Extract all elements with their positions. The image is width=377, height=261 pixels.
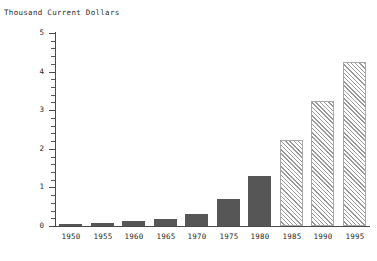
x-axis-tick-label-1950: 1950 bbox=[55, 232, 87, 241]
bar-1980 bbox=[248, 176, 271, 226]
x-axis-tick-label-1980: 1980 bbox=[244, 232, 276, 241]
bar-1985 bbox=[280, 140, 303, 226]
bar-1950 bbox=[59, 224, 82, 226]
bar-1975 bbox=[217, 199, 240, 226]
bar-1995 bbox=[343, 62, 366, 226]
bar-1960 bbox=[122, 221, 145, 226]
x-axis-tick-label-1955: 1955 bbox=[87, 232, 119, 241]
bar-chart: Thousand Current Dollars 012345 19501955… bbox=[0, 0, 377, 261]
x-axis-tick-label-1975: 1975 bbox=[213, 232, 245, 241]
bars-container bbox=[0, 0, 377, 261]
x-axis-tick-label-1995: 1995 bbox=[339, 232, 371, 241]
bar-1990 bbox=[311, 101, 334, 226]
x-axis-tick-label-1960: 1960 bbox=[118, 232, 150, 241]
x-axis-tick-label-1970: 1970 bbox=[181, 232, 213, 241]
bar-1970 bbox=[185, 214, 208, 226]
x-axis-tick-label-1965: 1965 bbox=[150, 232, 182, 241]
bar-1955 bbox=[91, 223, 114, 226]
bar-1965 bbox=[154, 219, 177, 226]
x-axis-tick-label-1990: 1990 bbox=[307, 232, 339, 241]
x-axis-tick-label-1985: 1985 bbox=[276, 232, 308, 241]
